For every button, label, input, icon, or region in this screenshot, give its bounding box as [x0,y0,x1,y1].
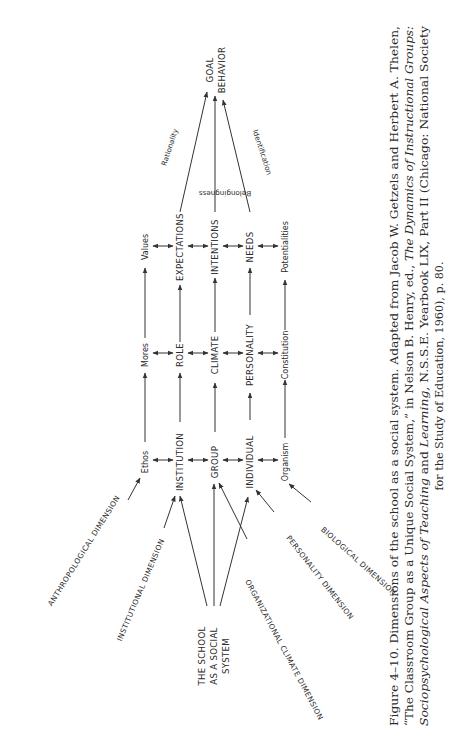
social-system-diagram: Ethos INSTITUTION GROUP INDIVIDUAL Organ… [0,0,468,747]
caption-line-3-b: and [418,447,431,474]
source-line-2: AS A SOCIAL [209,627,219,684]
dimension-arrows [128,478,311,539]
node-personality: PERSONALITY [245,323,255,386]
row1-nodes: Ethos INSTITUTION GROUP INDIVIDUAL Organ… [141,433,290,491]
node-group: GROUP [210,446,220,478]
caption-line-2-a: “The Classroom Group as a Unique Social … [403,261,416,726]
source-line-3: SYSTEM [221,638,231,674]
node-intentions: INTENTIONS [210,219,220,275]
node-constitution: Constitution [281,331,290,380]
caption-line-4: for the Study of Education, 1960), p. 80… [433,261,446,490]
dimension-anthropological: ANTHROPOLOGICAL DIMENSION [46,494,122,608]
source-node: THE SCHOOL AS A SOCIAL SYSTEM [197,626,231,686]
node-role: ROLE [175,343,185,367]
caption-line-3-c: Learning, [418,387,431,448]
node-needs: NEEDS [245,232,255,263]
caption-line-2: “The Classroom Group as a Unique Social … [403,26,416,726]
source-arrows [180,484,248,606]
node-expectations: EXPECTATIONS [175,213,185,281]
goal-line-1: GOAL [205,57,215,82]
caption-line-3: Sociopsychological Aspects of Teaching a… [418,25,431,726]
source-line-1: THE SCHOOL [197,626,207,686]
node-individual: INDIVIDUAL [245,435,255,488]
node-institution: INSTITUTION [175,433,185,491]
goal-line-2: BEHAVIOR [217,47,227,94]
figure-caption: Figure 4–10. Dimensions of the school as… [388,25,446,726]
row3-nodes: Values EXPECTATIONS INTENTIONS NEEDS Pot… [141,213,290,281]
caption-line-3-d: N.S.S.E. Yearbook LIX, Part II (Chicago:… [418,25,431,386]
dimension-institutional: INSTITUTIONAL DIMENSION [115,537,166,642]
node-mores: Mores [141,343,150,367]
goal-behavior: GOAL BEHAVIOR [205,47,227,94]
caption-line-3-a: Sociopsychological Aspects of Teaching [418,474,431,726]
node-potentialities: Potentialities [281,221,290,273]
caption-line-1: Figure 4–10. Dimensions of the school as… [388,26,401,726]
dimension-organizational-climate: ORGANIZATIONAL CLIMATE DIMENSION [243,578,325,722]
node-climate: CLIMATE [210,336,220,375]
label-rationality: Rationality [159,127,180,167]
caption-line-2-b: The Dynamics of Instructional Groups: [403,26,416,261]
label-identification: Identification [251,128,274,176]
node-ethos: Ethos [141,451,150,473]
row2-nodes: Mores ROLE CLIMATE PERSONALITY Constitut… [141,323,290,386]
label-belongingness: Belongingness [199,189,252,198]
node-organism: Organism [281,442,290,481]
node-values: Values [141,234,150,260]
